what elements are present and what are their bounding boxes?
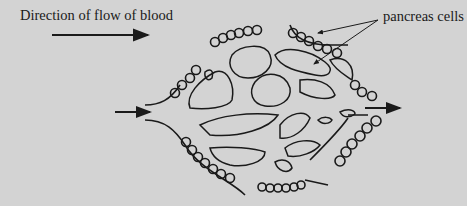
cell-chain-upper-right (289, 29, 342, 58)
islet-group (189, 46, 355, 171)
cell-chain-left-lower (182, 138, 235, 183)
pancreas-diagram (0, 0, 467, 206)
cell-chain-top (211, 26, 262, 47)
cell-chain-right (335, 81, 381, 167)
cell-chain-bottom (258, 181, 305, 192)
